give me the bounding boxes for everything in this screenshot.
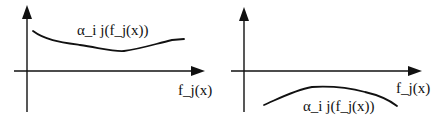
right-y-axis-arrow-icon — [239, 7, 249, 21]
left-x-axis-arrow-icon — [191, 66, 205, 76]
left-x-axis-label: f_j(x) — [178, 82, 212, 99]
right-panel: α_i j(f_j(x)) f_j(x) — [231, 7, 430, 115]
right-x-axis-arrow-icon — [408, 66, 422, 76]
left-y-axis-arrow-icon — [22, 5, 32, 19]
diagram-canvas: α_i j(f_j(x)) f_j(x) α_i j(f_j(x)) f_j(x… — [0, 0, 442, 122]
left-curve-label: α_i j(f_j(x)) — [77, 22, 149, 39]
left-panel: α_i j(f_j(x)) f_j(x) — [14, 5, 212, 112]
right-x-axis-label: f_j(x) — [396, 80, 430, 97]
right-curve-label: α_i j(f_j(x)) — [303, 98, 375, 115]
